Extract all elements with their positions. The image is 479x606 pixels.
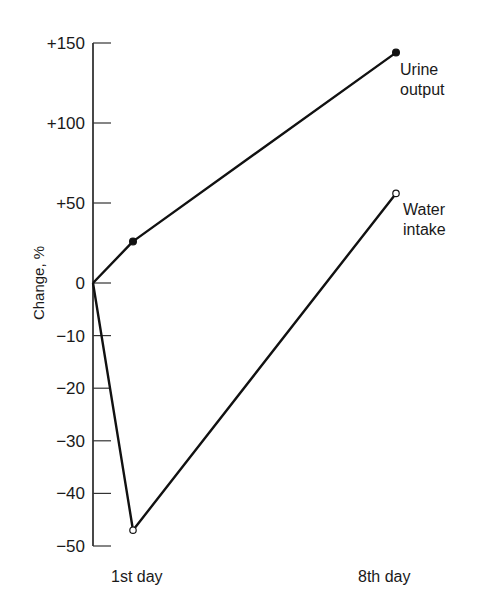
series-label-water-intake: Water: [403, 201, 446, 218]
series-labels: UrineoutputWaterintake: [400, 61, 446, 238]
y-tick-label: +100: [47, 114, 85, 133]
series-label-water-intake: intake: [403, 221, 446, 238]
data-point-urine-output: [130, 238, 137, 245]
data-point-water-intake: [130, 527, 136, 533]
line-chart: +150+100+500−10−20−30−40−50 Change, % Ur…: [0, 0, 479, 606]
y-tick-label: −30: [56, 432, 85, 451]
data-point-urine-output: [393, 49, 400, 56]
y-tick-label: 0: [76, 274, 85, 293]
series-lines: [93, 49, 399, 533]
series-line-water-intake: [93, 193, 396, 530]
series-label-urine-output: output: [400, 81, 445, 98]
series-label-urine-output: Urine: [400, 61, 438, 78]
y-tick-label: +50: [56, 194, 85, 213]
y-axis-label: Change, %: [30, 246, 47, 320]
y-tick-label: −40: [56, 484, 85, 503]
data-point-water-intake: [393, 190, 399, 196]
y-tick-label: −50: [56, 537, 85, 556]
x-tick-label-1st-day: 1st day: [111, 568, 163, 585]
x-tick-label-8th-day: 8th day: [358, 568, 410, 585]
series-line-urine-output: [93, 53, 396, 283]
y-tick-label: −20: [56, 379, 85, 398]
y-tick-label: −10: [56, 327, 85, 346]
y-tick-label: +150: [47, 34, 85, 53]
y-axis-ticks: +150+100+500−10−20−30−40−50: [47, 34, 111, 556]
